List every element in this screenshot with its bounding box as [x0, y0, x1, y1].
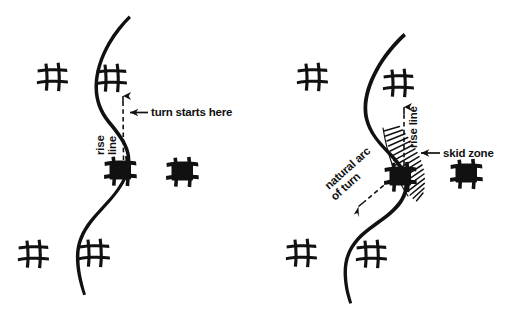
label-turn-starts-here: turn starts here	[151, 106, 232, 118]
label-rise: rise	[94, 135, 106, 155]
label-line: line	[106, 136, 118, 155]
diagram-canvas: turn starts here rise line	[0, 0, 523, 313]
label-rise-line-right: rise line	[407, 106, 419, 148]
label-skid-zone: skid zone	[443, 147, 494, 159]
turn-diagram-svg: turn starts here rise line	[0, 0, 523, 313]
